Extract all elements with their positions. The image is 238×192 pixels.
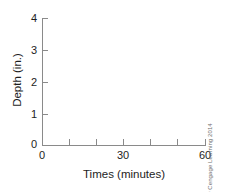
x-tick-label: 0 <box>30 150 54 161</box>
y-tick-label: 0 <box>23 139 37 150</box>
x-tick-mark <box>205 139 206 145</box>
x-tick-label: 60 <box>193 150 217 161</box>
x-axis-title: Times (minutes) <box>42 168 206 180</box>
plot-area <box>42 18 205 145</box>
y-tick-label: 2 <box>23 77 37 88</box>
chart-figure: 4 3 2 1 0 0 30 60 Times (minutes) Depth … <box>0 0 238 192</box>
y-tick-label: 3 <box>23 45 37 56</box>
x-tick-mark <box>96 139 97 145</box>
y-tick-label: 4 <box>23 13 37 24</box>
x-tick-mark <box>150 139 151 145</box>
y-tick-mark <box>43 50 48 51</box>
y-tick-label: 1 <box>23 109 37 120</box>
y-tick-mark <box>43 114 48 115</box>
x-tick-mark <box>123 139 124 145</box>
y-tick-mark <box>43 18 48 19</box>
y-axis-title: Depth (in.) <box>11 25 23 135</box>
x-axis-line <box>42 145 206 146</box>
copyright-credit: © Cengage Learning 2014 <box>207 76 213 192</box>
x-tick-label: 30 <box>111 150 135 161</box>
y-tick-mark <box>43 82 48 83</box>
x-tick-mark <box>69 139 70 145</box>
x-tick-mark <box>177 139 178 145</box>
